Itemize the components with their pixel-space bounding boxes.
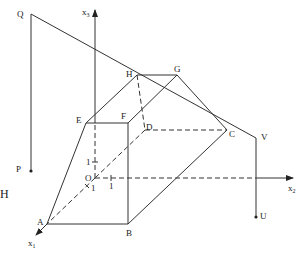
polytope-edges [47,75,227,224]
label-B: B [126,228,132,238]
tick-label-x3: 1 [86,157,91,167]
polytope-diagram: Q P V U A B C D E F G H O 1 1 1 H x3 x2 … [0,0,301,256]
tick-label-x2: 1 [109,181,114,191]
axis-label-x3: x3 [82,7,90,18]
tick-label-x1: 1 [91,183,96,193]
label-V: V [261,132,268,142]
label-E: E [76,115,82,125]
x1-axis [36,178,95,235]
label-Q: Q [17,9,24,19]
label-C: C [229,129,235,139]
label-P: P [16,164,21,174]
label-A: A [37,217,44,227]
axis-label-x2: x2 [288,183,296,194]
label-G: G [174,64,181,74]
label-origin: O [85,173,92,183]
axis-label-x1: x1 [28,238,36,249]
side-label-H: H [0,187,9,201]
label-U: U [260,211,267,221]
label-H: H [126,69,133,79]
label-F: F [121,111,126,121]
point-U-marker [254,215,257,218]
label-D: D [146,122,153,132]
point-P-marker [29,169,32,172]
plane-trace [31,14,256,217]
